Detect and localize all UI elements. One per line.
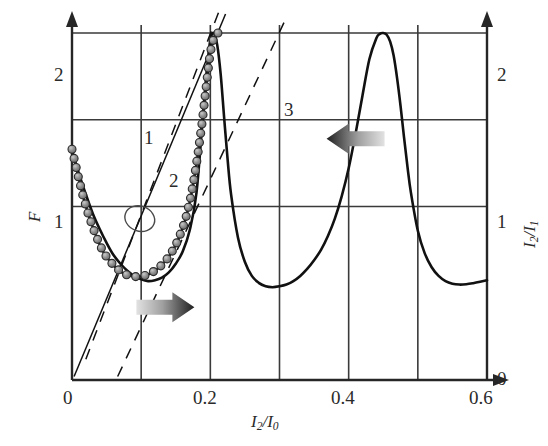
x-axis-title: I2/I0 bbox=[251, 413, 279, 433]
direction-arrows bbox=[136, 124, 384, 322]
y-axis-right-title-slash: / bbox=[520, 232, 539, 237]
reference-lines bbox=[74, 12, 286, 376]
ytick-right-label-2: 2 bbox=[497, 65, 507, 84]
xtick-label-3: 0.6 bbox=[469, 388, 493, 407]
xtick-label-2: 0.4 bbox=[331, 388, 355, 407]
reference-line-label-2: 2 bbox=[169, 171, 179, 190]
y-axis-left-title: F bbox=[26, 212, 43, 222]
ytick-right-label-1: 1 bbox=[497, 212, 507, 231]
y-axis-right-title-den-sub: 1 bbox=[528, 220, 541, 226]
data-point-markers bbox=[68, 29, 222, 281]
y-axis-right-title-den: I bbox=[520, 226, 539, 232]
axes bbox=[66, 11, 509, 386]
y-axis-left-title-text: F bbox=[25, 212, 44, 222]
xtick-label-0: 0 bbox=[63, 388, 73, 407]
y-axis-right-title-num-sub: 2 bbox=[528, 237, 541, 243]
chart-canvas: 0 0.2 0.4 0.6 1 2 0 1 2 1 2 3 I2/I0 F I2… bbox=[0, 0, 548, 446]
ytick-left-label-2: 2 bbox=[54, 65, 64, 84]
reference-line-label-1: 1 bbox=[144, 128, 154, 147]
reference-line-label-3: 3 bbox=[284, 100, 294, 119]
xtick-label-1: 0.2 bbox=[193, 388, 217, 407]
gridlines bbox=[72, 25, 487, 380]
ytick-left-label-1: 1 bbox=[54, 212, 64, 231]
y-axis-right-title: I2/I1 bbox=[521, 220, 541, 248]
y-axis-right-title-num: I bbox=[520, 242, 539, 248]
chart-figure bbox=[0, 0, 548, 446]
ytick-right-label-0: 0 bbox=[497, 369, 507, 388]
x-axis-title-den-sub: 0 bbox=[273, 420, 279, 433]
